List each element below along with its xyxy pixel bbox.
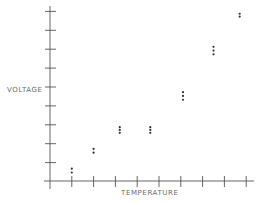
- data-point: [71, 171, 73, 173]
- data-point: [93, 148, 95, 150]
- data-point: [182, 95, 184, 97]
- data-point: [93, 152, 95, 154]
- data-point: [119, 129, 121, 131]
- data-point: [119, 126, 121, 128]
- scatter-chart: [0, 0, 261, 205]
- data-point: [119, 132, 121, 134]
- data-point: [71, 168, 73, 170]
- data-points: [71, 13, 241, 174]
- data-point: [212, 49, 214, 51]
- data-point: [149, 126, 151, 128]
- data-point: [149, 132, 151, 134]
- data-point: [239, 15, 241, 17]
- axes: [44, 6, 254, 189]
- y-axis-label: VOLTAGE: [7, 86, 43, 94]
- data-point: [182, 99, 184, 101]
- data-point: [239, 13, 241, 15]
- data-point: [212, 53, 214, 55]
- data-point: [149, 129, 151, 131]
- data-point: [182, 91, 184, 93]
- x-axis-label: TEMPERATURE: [121, 189, 179, 197]
- data-point: [212, 46, 214, 48]
